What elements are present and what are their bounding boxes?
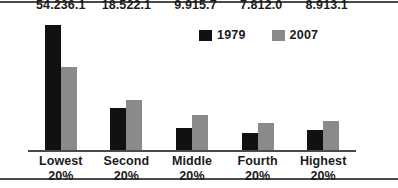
bar-column-1979: 8.9 [307,12,323,151]
bar-column-1979: 18.5 [110,12,126,151]
bar-2007 [192,115,208,151]
bar-2007 [61,67,77,151]
x-axis-tick-labels: Lowest20%Second20%Middle20%Fourth20%High… [28,154,356,184]
x-tick-label-line: 20% [94,169,160,184]
x-tick-label-line: Middle [159,154,225,169]
bar-pair: 18.522.1 [110,12,142,151]
bar-1979 [176,128,192,151]
bar-group: 54.236.1 [28,12,94,151]
x-tick-label-line: 20% [290,169,356,184]
bar-group: 8.913.1 [290,12,356,151]
bar-2007 [323,121,339,151]
bar-pair: 7.812.0 [242,12,274,151]
bar-value-label: 54.2 [36,0,61,12]
bar-chart-figure: 1979 2007 54.236.118.522.19.915.77.812.0… [0,0,398,188]
bar-column-1979: 54.2 [45,12,61,151]
bar-value-label: 15.7 [192,0,217,12]
bar-1979 [45,25,61,151]
bar-value-label: 8.9 [306,0,324,12]
bar-column-1979: 9.9 [176,12,192,151]
bar-value-label: 13.1 [323,0,348,12]
bar-1979 [110,108,126,151]
bar-2007 [126,100,142,151]
bar-column-1979: 7.8 [242,12,258,151]
bar-value-label: 7.8 [240,0,258,12]
x-tick-label-0: Lowest20% [28,154,94,184]
x-axis-line [28,150,356,152]
x-tick-label-line: Fourth [225,154,291,169]
bar-value-label: 18.5 [102,0,127,12]
x-tick-label-2: Middle20% [159,154,225,184]
bar-2007 [258,123,274,151]
plot-area: 54.236.118.522.19.915.77.812.08.913.1 [28,12,356,151]
bar-value-label: 36.1 [61,0,86,12]
bar-column-2007: 22.1 [126,12,142,151]
x-tick-label-line: 20% [225,169,291,184]
bar-pair: 9.915.7 [176,12,208,151]
bar-1979 [242,133,258,151]
bar-pair: 54.236.1 [45,12,77,151]
bar-group: 18.522.1 [94,12,160,151]
bar-value-label: 12.0 [258,0,283,12]
x-tick-label-line: Second [94,154,160,169]
x-tick-label-line: Lowest [28,154,94,169]
bar-pair: 8.913.1 [307,12,339,151]
x-tick-label-line: 20% [159,169,225,184]
bar-1979 [307,130,323,151]
x-tick-label-line: Highest [290,154,356,169]
bar-column-2007: 15.7 [192,12,208,151]
bar-column-2007: 13.1 [323,12,339,151]
bar-column-2007: 12.0 [258,12,274,151]
bar-group: 9.915.7 [159,12,225,151]
x-tick-label-1: Second20% [94,154,160,184]
bar-column-2007: 36.1 [61,12,77,151]
bar-value-label: 9.9 [174,0,192,12]
x-tick-label-4: Highest20% [290,154,356,184]
bar-group: 7.812.0 [225,12,291,151]
bar-value-label: 22.1 [126,0,151,12]
x-tick-label-3: Fourth20% [225,154,291,184]
x-tick-label-line: 20% [28,169,94,184]
